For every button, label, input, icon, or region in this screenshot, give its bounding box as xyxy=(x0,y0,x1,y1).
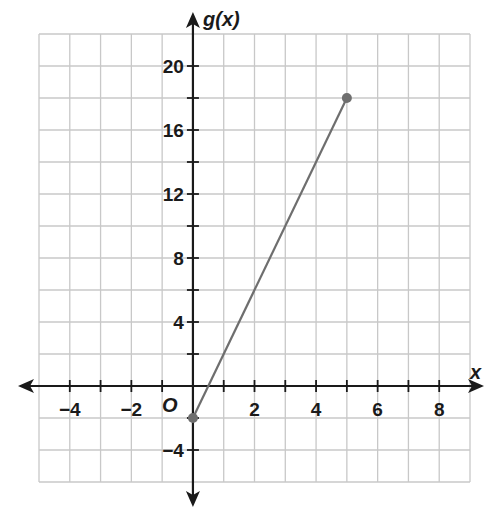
x-tick-label: 2 xyxy=(249,399,260,420)
x-tick-label: 4 xyxy=(311,399,322,420)
x-axis-title: x xyxy=(469,361,482,383)
y-tick-label: 4 xyxy=(173,312,184,333)
origin-label: O xyxy=(162,394,178,416)
x-tick-label: 8 xyxy=(434,399,445,420)
y-axis-title: g(x) xyxy=(202,8,240,30)
axes xyxy=(18,12,484,507)
x-tick-label: −2 xyxy=(121,399,143,420)
y-tick-label: 16 xyxy=(163,120,184,141)
y-tick-label: 8 xyxy=(173,248,184,269)
x-tick-label: −4 xyxy=(59,399,81,420)
graph-of-g: −4−22468−448121620 g(x) x O xyxy=(0,0,491,519)
endpoint-marker xyxy=(342,93,352,103)
endpoint-marker xyxy=(188,413,198,423)
y-tick-label: 20 xyxy=(163,56,184,77)
x-tick-label: 6 xyxy=(372,399,383,420)
y-tick-label: −4 xyxy=(162,440,184,461)
y-tick-label: 12 xyxy=(163,184,184,205)
